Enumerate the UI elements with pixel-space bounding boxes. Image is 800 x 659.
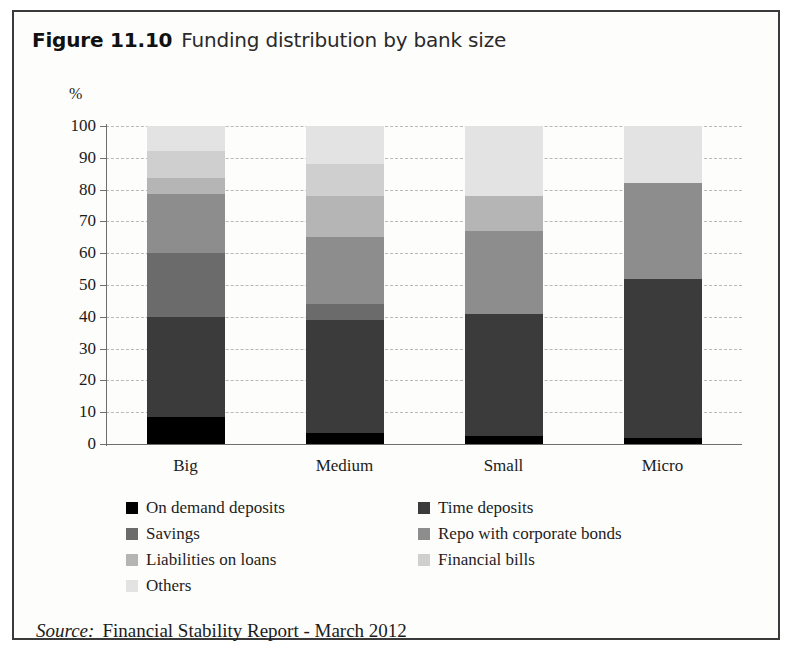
legend-label: Liabilities on loans	[146, 551, 276, 568]
legend-label: Financial bills	[438, 551, 535, 568]
legend-swatch-icon	[418, 528, 430, 540]
bar-segment[interactable]	[465, 231, 543, 314]
x-axis-tick-label: Big	[126, 456, 246, 476]
legend-item[interactable]: Financial bills	[418, 551, 535, 568]
bar-segment[interactable]	[624, 183, 702, 278]
legend-swatch-icon	[126, 502, 138, 514]
x-axis-tick-label: Medium	[285, 456, 405, 476]
bar-segment[interactable]	[465, 196, 543, 231]
legend-row: SavingsRepo with corporate bonds	[126, 525, 726, 551]
bar-segment[interactable]	[147, 194, 225, 253]
legend-swatch-icon	[418, 502, 430, 514]
legend-label: Time deposits	[438, 499, 533, 516]
stacked-bar[interactable]	[306, 126, 384, 444]
bar-group	[106, 126, 742, 444]
bar-segment[interactable]	[306, 196, 384, 237]
legend-item[interactable]: Liabilities on loans	[126, 551, 276, 568]
legend-swatch-icon	[126, 528, 138, 540]
bar-segment[interactable]	[624, 279, 702, 438]
legend-row: Others	[126, 577, 726, 603]
legend-label: Savings	[146, 525, 200, 542]
legend-item[interactable]: On demand deposits	[126, 499, 285, 516]
y-axis-tick-label: 50	[56, 276, 96, 293]
bar-segment[interactable]	[306, 164, 384, 196]
legend-item[interactable]: Repo with corporate bonds	[418, 525, 622, 542]
bar-segment[interactable]	[624, 126, 702, 183]
legend-item[interactable]: Savings	[126, 525, 200, 542]
y-axis-tick-label: 60	[56, 244, 96, 261]
chart-legend: On demand depositsTime depositsSavingsRe…	[126, 499, 726, 603]
bar-segment[interactable]	[465, 126, 543, 196]
y-axis-tick-label: 20	[56, 371, 96, 388]
bar-segment[interactable]	[147, 178, 225, 194]
source-label: Source:	[36, 620, 94, 641]
legend-swatch-icon	[126, 554, 138, 566]
x-axis-tick-label: Micro	[603, 456, 723, 476]
legend-label: On demand deposits	[146, 499, 285, 516]
bar-segment[interactable]	[465, 436, 543, 444]
y-axis-tick	[100, 444, 107, 445]
legend-item[interactable]: Others	[126, 577, 191, 594]
bar-segment[interactable]	[147, 151, 225, 178]
figure-frame: Figure 11.10Funding distribution by bank…	[12, 10, 780, 640]
legend-item[interactable]: Time deposits	[418, 499, 533, 516]
bar-segment[interactable]	[465, 314, 543, 436]
x-axis-tick-label: Small	[444, 456, 564, 476]
y-axis-tick-label: 80	[56, 181, 96, 198]
source-note: Source:Financial Stability Report - Marc…	[36, 620, 407, 642]
bar-segment[interactable]	[306, 126, 384, 164]
legend-row: On demand depositsTime deposits	[126, 499, 726, 525]
y-axis-tick-label: 90	[56, 149, 96, 166]
stacked-bar[interactable]	[147, 126, 225, 444]
y-axis-tick-label: 30	[56, 340, 96, 357]
bar-segment[interactable]	[147, 317, 225, 417]
bar-segment[interactable]	[147, 417, 225, 444]
bar-segment[interactable]	[306, 237, 384, 304]
gridline	[106, 444, 742, 445]
legend-swatch-icon	[418, 554, 430, 566]
y-axis-tick-label: 40	[56, 308, 96, 325]
legend-label: Others	[146, 577, 191, 594]
bar-segment[interactable]	[147, 253, 225, 317]
y-axis-tick-label: 0	[56, 435, 96, 452]
stacked-bar[interactable]	[465, 126, 543, 444]
legend-swatch-icon	[126, 580, 138, 592]
source-text: Financial Stability Report - March 2012	[102, 620, 406, 641]
y-axis-tick-label: 10	[56, 403, 96, 420]
stacked-bar[interactable]	[624, 126, 702, 444]
bar-segment[interactable]	[624, 438, 702, 444]
y-axis-unit-label: %	[69, 85, 82, 103]
bar-segment[interactable]	[306, 433, 384, 444]
bar-segment[interactable]	[147, 126, 225, 151]
y-axis-tick-label: 70	[56, 212, 96, 229]
bar-segment[interactable]	[306, 304, 384, 320]
bar-segment[interactable]	[306, 320, 384, 433]
legend-row: Liabilities on loansFinancial bills	[126, 551, 726, 577]
legend-label: Repo with corporate bonds	[438, 525, 622, 542]
y-axis-tick-label: 100	[56, 117, 96, 134]
